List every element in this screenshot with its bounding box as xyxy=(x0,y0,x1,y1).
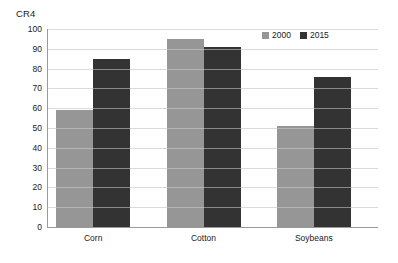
gridline-overlay xyxy=(48,187,378,188)
y-axis-tick-label: 20 xyxy=(17,182,42,192)
legend-label-2015: 2015 xyxy=(310,30,329,40)
legend-swatch-2015-icon xyxy=(300,32,307,39)
y-axis-tick-label: 10 xyxy=(17,202,42,212)
bar-chart: CR4 1009080706050403020100 CornCottonSoy… xyxy=(0,0,398,263)
legend-label-2000: 2000 xyxy=(272,30,291,40)
y-axis-tick-label: 40 xyxy=(17,143,42,153)
y-axis-tick-label: 80 xyxy=(17,64,42,74)
gridline-overlay xyxy=(48,88,378,89)
gridline-overlay xyxy=(48,148,378,149)
plot-area: CornCottonSoybeans xyxy=(47,29,378,228)
gridline-overlay xyxy=(48,49,378,50)
y-axis-tick-label: 0 xyxy=(17,222,42,232)
gridline-overlay xyxy=(48,69,378,70)
legend-entry-2000[interactable]: 2000 xyxy=(262,30,291,40)
gridline-overlay xyxy=(48,168,378,169)
gridline-overlay xyxy=(48,128,378,129)
x-axis-label-cotton: Cotton xyxy=(191,233,216,243)
gridline-overlay xyxy=(48,108,378,109)
y-axis-title: CR4 xyxy=(16,8,36,19)
legend: 2000 2015 xyxy=(262,30,329,40)
bar-corn-2015[interactable] xyxy=(93,59,130,227)
x-axis-label-corn: Corn xyxy=(84,233,102,243)
y-axis-tick-label: 100 xyxy=(17,24,42,34)
y-axis-tick-label: 90 xyxy=(17,44,42,54)
bar-soybeans-2015[interactable] xyxy=(314,77,351,227)
legend-entry-2015[interactable]: 2015 xyxy=(300,30,329,40)
y-axis-tick-label: 60 xyxy=(17,103,42,113)
x-axis-line xyxy=(47,227,378,228)
gridline-overlay xyxy=(48,207,378,208)
y-axis-tick-label: 70 xyxy=(17,83,42,93)
bar-soybeans-2000[interactable] xyxy=(277,126,314,227)
bar-cotton-2000[interactable] xyxy=(167,39,204,227)
y-axis-tick-label: 50 xyxy=(17,123,42,133)
bar-cotton-2015[interactable] xyxy=(204,47,241,227)
x-axis-label-soybeans: Soybeans xyxy=(295,233,333,243)
y-axis-tick-label: 30 xyxy=(17,163,42,173)
legend-swatch-2000-icon xyxy=(262,32,269,39)
